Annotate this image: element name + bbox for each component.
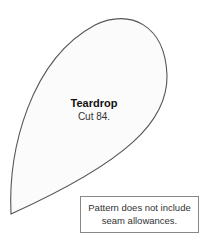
cut-instruction: Cut 84. xyxy=(62,111,126,122)
note-line-1: Pattern does not include xyxy=(81,201,198,214)
seam-allowance-note: Pattern does not include seam allowances… xyxy=(80,196,199,233)
pattern-title: Teardrop xyxy=(62,97,126,109)
note-line-2: seam allowances. xyxy=(81,214,198,227)
